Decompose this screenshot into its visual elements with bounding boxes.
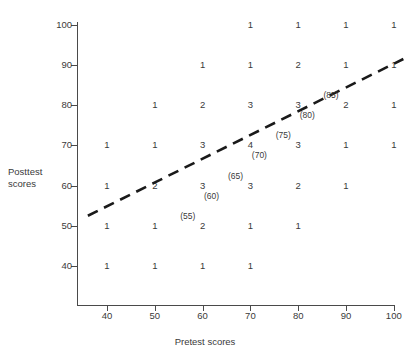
y-axis-title-line1: Posttest [8, 166, 72, 178]
y-axis-title: Posttest scores [8, 166, 72, 189]
data-point-count: 1 [195, 59, 211, 70]
regression-prediction-label: (55) [173, 211, 203, 221]
x-tick-label: 100 [379, 311, 406, 321]
regression-prediction-label: (70) [244, 150, 274, 160]
data-point-count: 1 [386, 59, 402, 70]
data-point-count: 1 [338, 19, 354, 30]
data-point-count: 1 [338, 59, 354, 70]
data-point-count: 2 [195, 220, 211, 231]
data-point-count: 1 [99, 260, 115, 271]
x-tick-label: 40 [92, 311, 122, 321]
data-point-count: 3 [242, 180, 258, 191]
scatter-plot: 405060708090100 405060708090100 11111121… [0, 0, 406, 359]
data-point-count: 1 [147, 260, 163, 271]
y-tick-label: 80 [42, 100, 72, 110]
y-tick-label: 40 [42, 261, 72, 271]
regression-prediction-label: (75) [268, 130, 298, 140]
data-point-count: 1 [147, 139, 163, 150]
data-point-count: 3 [195, 139, 211, 150]
y-tick-label: 50 [42, 221, 72, 231]
data-point-count: 2 [338, 99, 354, 110]
regression-prediction-label: (65) [221, 171, 251, 181]
data-point-count: 3 [290, 99, 306, 110]
data-point-count: 1 [242, 59, 258, 70]
data-point-count: 1 [242, 19, 258, 30]
x-tick-label: 90 [331, 311, 361, 321]
data-point-count: 4 [242, 139, 258, 150]
data-point-count: 2 [195, 99, 211, 110]
data-point-count: 2 [290, 180, 306, 191]
data-point-count: 1 [99, 180, 115, 191]
data-point-count: 1 [386, 99, 402, 110]
data-point-count: 1 [195, 260, 211, 271]
data-point-count: 3 [290, 139, 306, 150]
data-point-count: 1 [242, 220, 258, 231]
data-point-count: 1 [99, 139, 115, 150]
x-tick-label: 80 [283, 311, 313, 321]
data-point-count: 1 [386, 139, 402, 150]
data-point-count: 3 [242, 99, 258, 110]
data-point-count: 2 [147, 180, 163, 191]
data-point-count: 1 [290, 19, 306, 30]
data-point-count: 2 [290, 59, 306, 70]
y-tick-label: 70 [42, 140, 72, 150]
data-point-count: 1 [338, 139, 354, 150]
y-tick-label: 90 [42, 60, 72, 70]
regression-prediction-label: (80) [292, 110, 322, 120]
data-point-count: 1 [147, 220, 163, 231]
y-tick-label: 100 [42, 20, 72, 30]
x-tick-label: 70 [235, 311, 265, 321]
x-tick-label: 50 [140, 311, 170, 321]
data-point-count: 1 [386, 19, 402, 30]
y-axis-title-line2: scores [8, 178, 72, 190]
regression-prediction-label: (60) [197, 191, 227, 201]
data-point-count: 1 [147, 99, 163, 110]
data-point-count: 1 [290, 220, 306, 231]
data-point-count: 1 [99, 220, 115, 231]
data-point-count: 1 [242, 260, 258, 271]
data-point-count: 1 [338, 180, 354, 191]
x-tick-label: 60 [188, 311, 218, 321]
regression-prediction-label: (85) [316, 90, 346, 100]
x-axis-title: Pretest scores [135, 336, 275, 347]
y-axis-line [77, 22, 78, 305]
data-point-count: 3 [195, 180, 211, 191]
